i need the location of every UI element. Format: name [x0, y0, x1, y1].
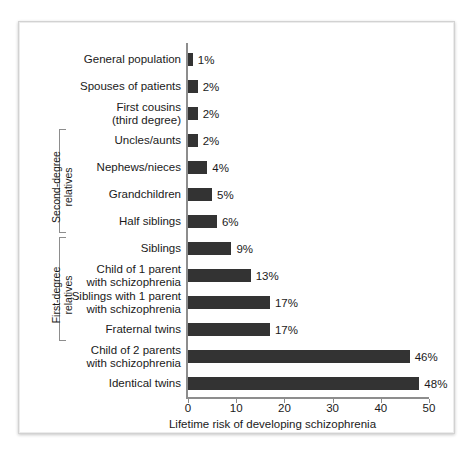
category-label: Child of 1 parent with schizophrenia	[11, 262, 181, 289]
x-axis-tick-label: 20	[264, 402, 304, 414]
bar-track: 4%	[188, 154, 229, 181]
bar-value-label: 2%	[203, 108, 220, 120]
bar-row: Nephews/nieces4%	[19, 154, 456, 181]
bar-value-label: 6%	[222, 216, 239, 228]
bar-row: Child of 1 parent with schizophrenia13%	[19, 262, 456, 289]
category-label: Siblings	[11, 235, 181, 262]
bar-value-label: 17%	[275, 297, 298, 309]
bar	[188, 161, 207, 174]
bar-row: Fraternal twins17%	[19, 316, 456, 343]
category-label: Half siblings	[11, 208, 181, 235]
bar-value-label: 2%	[203, 135, 220, 147]
x-axis-tick-label: 10	[216, 402, 256, 414]
bar-value-label: 4%	[212, 162, 229, 174]
x-axis-tick-label: 0	[168, 402, 208, 414]
x-axis-title: Lifetime risk of developing schizophreni…	[19, 418, 456, 430]
bar	[188, 107, 198, 120]
x-axis-tick-label: 50	[409, 402, 449, 414]
bar-value-label: 13%	[256, 270, 279, 282]
chart-plot-area: General population1%Spouses of patients2…	[19, 22, 456, 435]
bar-track: 17%	[188, 289, 298, 316]
bar-row: First cousins (third degree)2%	[19, 100, 456, 127]
bar-value-label: 1%	[198, 54, 215, 66]
x-axis-tick-label: 40	[361, 402, 401, 414]
category-label: Uncles/aunts	[11, 127, 181, 154]
bar-track: 2%	[188, 73, 219, 100]
bar-row: Uncles/aunts2%	[19, 127, 456, 154]
bar	[188, 242, 231, 255]
category-label: Child of 2 parents with schizophrenia	[11, 343, 181, 370]
bar-track: 13%	[188, 262, 279, 289]
bar-value-label: 5%	[217, 189, 234, 201]
category-label: Nephews/nieces	[11, 154, 181, 181]
bar-row: Child of 2 parents with schizophrenia46%	[19, 343, 456, 370]
group-label: Second-degree relatives	[50, 127, 74, 247]
bar-track: 2%	[188, 127, 219, 154]
category-label: Siblings with 1 parent with schizophreni…	[11, 289, 181, 316]
bar-track: 9%	[188, 235, 253, 262]
bar	[188, 323, 270, 336]
bar-track: 6%	[188, 208, 239, 235]
bar	[188, 377, 419, 390]
bar-row: Spouses of patients2%	[19, 73, 456, 100]
bar	[188, 215, 217, 228]
bar-row: Half siblings6%	[19, 208, 456, 235]
bar-value-label: 46%	[415, 351, 438, 363]
bar	[188, 350, 410, 363]
bar-track: 46%	[188, 343, 438, 370]
x-axis-tick-label: 30	[313, 402, 353, 414]
bar	[188, 296, 270, 309]
category-label: First cousins (third degree)	[11, 100, 181, 127]
bar-row: General population1%	[19, 46, 456, 73]
bar	[188, 188, 212, 201]
bar-value-label: 48%	[424, 378, 447, 390]
bar-value-label: 9%	[236, 243, 253, 255]
bar-row: Siblings with 1 parent with schizophreni…	[19, 289, 456, 316]
group-label: First-degree relatives	[50, 235, 74, 355]
category-label: Fraternal twins	[11, 316, 181, 343]
x-axis-line	[186, 397, 429, 399]
bar	[188, 80, 198, 93]
figure-frame: General population1%Spouses of patients2…	[18, 21, 455, 434]
bar-track: 2%	[188, 100, 219, 127]
bar-row: Siblings9%	[19, 235, 456, 262]
bar	[188, 269, 251, 282]
bar	[188, 53, 193, 66]
bar-value-label: 2%	[203, 81, 220, 93]
bar-value-label: 17%	[275, 324, 298, 336]
bar-track: 1%	[188, 46, 214, 73]
category-label: Grandchildren	[11, 181, 181, 208]
bar	[188, 134, 198, 147]
category-label: Identical twins	[11, 370, 181, 397]
category-label: General population	[11, 46, 181, 73]
bar-row: Grandchildren5%	[19, 181, 456, 208]
bar-track: 5%	[188, 181, 234, 208]
bar-row: Identical twins48%	[19, 370, 456, 397]
category-label: Spouses of patients	[11, 73, 181, 100]
bar-track: 17%	[188, 316, 298, 343]
bar-track: 48%	[188, 370, 447, 397]
